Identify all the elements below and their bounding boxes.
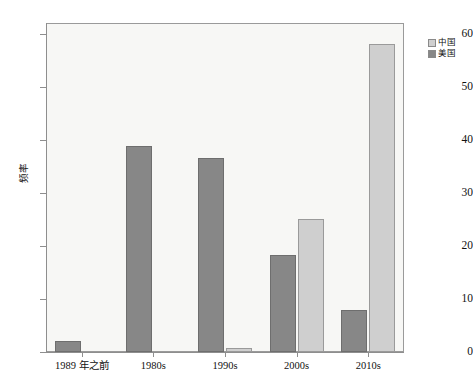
legend-label-china: 中国 bbox=[438, 38, 456, 47]
chart-legend: 中国 美国 bbox=[428, 38, 456, 58]
x-tick-2 bbox=[225, 352, 226, 357]
x-tick-0 bbox=[82, 352, 83, 357]
bar-usa-0 bbox=[55, 341, 81, 352]
y-tick-label-10: 10 bbox=[439, 293, 473, 305]
legend-item-usa[interactable]: 美国 bbox=[428, 49, 456, 58]
bar-china-3 bbox=[298, 219, 324, 352]
y-tick-label-30: 30 bbox=[439, 187, 473, 199]
y-tick-label-40: 40 bbox=[439, 134, 473, 146]
bar-china-4 bbox=[369, 44, 395, 352]
chart-root: 0102030405060 1989 年之前1980s1990s2000s201… bbox=[0, 0, 473, 384]
y-tick-label-20: 20 bbox=[439, 240, 473, 252]
legend-label-usa: 美国 bbox=[438, 49, 456, 58]
legend-item-china[interactable]: 中国 bbox=[428, 38, 456, 47]
y-tick-0 bbox=[40, 352, 46, 353]
bar-usa-3 bbox=[270, 255, 296, 352]
y-axis-label: 频率 bbox=[19, 143, 29, 203]
bar-usa-2 bbox=[198, 158, 224, 352]
x-tick-label-4: 2010s bbox=[323, 360, 413, 372]
x-tick-3 bbox=[297, 352, 298, 357]
y-tick-label-0: 0 bbox=[439, 346, 473, 358]
y-tick-label-50: 50 bbox=[439, 81, 473, 93]
bar-series-container bbox=[46, 23, 404, 352]
legend-swatch-usa-icon bbox=[428, 50, 436, 58]
x-tick-4 bbox=[368, 352, 369, 357]
x-tick-1 bbox=[153, 352, 154, 357]
legend-swatch-china-icon bbox=[428, 39, 436, 47]
bar-usa-1 bbox=[126, 146, 152, 352]
bar-usa-4 bbox=[341, 310, 367, 352]
bar-china-2 bbox=[226, 348, 252, 352]
